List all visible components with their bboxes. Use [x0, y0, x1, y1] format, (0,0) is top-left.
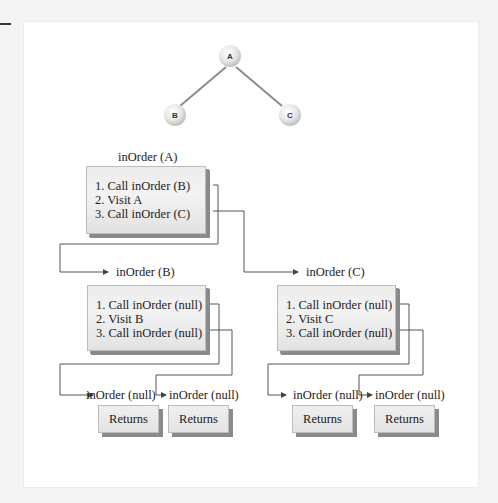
call-c-step-2: 2. Visit C	[286, 312, 392, 326]
null-call-title-1: inOrder (null)	[86, 388, 156, 402]
call-title-c: inOrder (C)	[306, 265, 365, 279]
returns-box-1: Returns	[98, 405, 159, 433]
call-a-step-1: 1. Call inOrder (B)	[95, 179, 190, 193]
call-box-c: 1. Call inOrder (null) 2. Visit C 3. Cal…	[277, 285, 396, 351]
call-title-b: inOrder (B)	[116, 265, 175, 279]
call-a-step-3: 3. Call inOrder (C)	[95, 207, 190, 221]
null-call-title-2: inOrder (null)	[169, 388, 239, 402]
null-call-title-3: inOrder (null)	[293, 388, 363, 402]
returns-box-4: Returns	[374, 405, 435, 433]
call-c-step-3: 3. Call inOrder (null)	[286, 326, 392, 340]
tree-node-a: A	[219, 45, 241, 67]
call-a-step-2: 2. Visit A	[95, 193, 190, 207]
tree-node-b: B	[164, 104, 186, 126]
call-title-a: inOrder (A)	[118, 150, 177, 164]
null-call-title-4: inOrder (null)	[375, 388, 445, 402]
call-c-step-1: 1. Call inOrder (null)	[286, 298, 392, 312]
call-b-step-1: 1. Call inOrder (null)	[96, 298, 202, 312]
tree-node-c: C	[279, 104, 301, 126]
call-b-step-3: 3. Call inOrder (null)	[96, 326, 202, 340]
call-b-step-2: 2. Visit B	[96, 312, 202, 326]
returns-box-2: Returns	[168, 405, 229, 433]
call-box-b: 1. Call inOrder (null) 2. Visit B 3. Cal…	[87, 285, 206, 351]
call-box-a: 1. Call inOrder (B) 2. Visit A 3. Call i…	[86, 166, 206, 234]
returns-box-3: Returns	[292, 405, 353, 433]
